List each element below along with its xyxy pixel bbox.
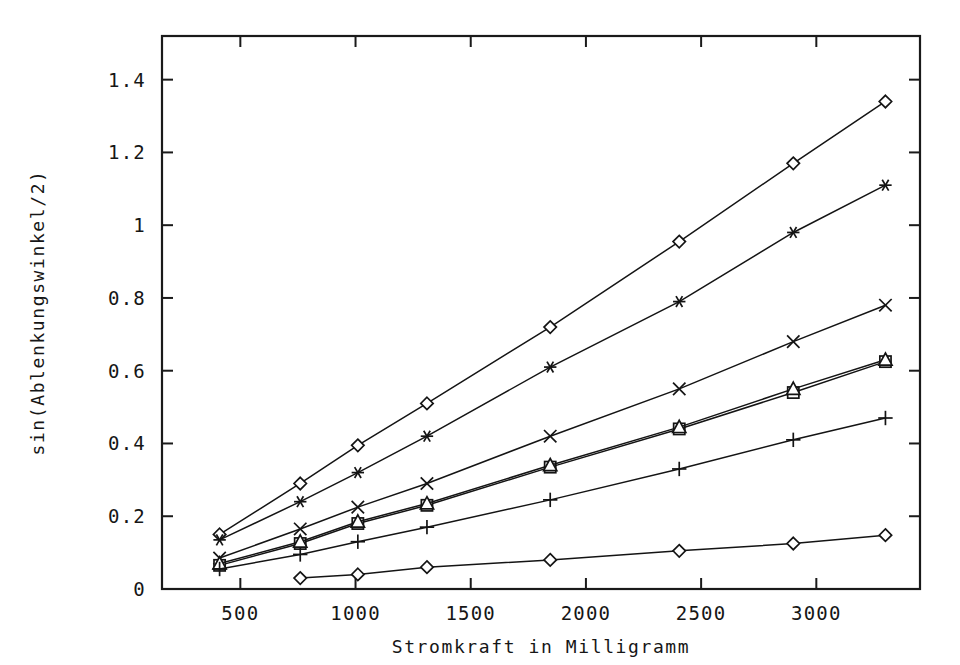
- y-tick-label: 1.4: [108, 69, 146, 91]
- data-point-cross-marker: [352, 501, 364, 513]
- series-series-2-star: [213, 180, 891, 546]
- y-axis-label: sin(Ablenkungswinkel/2): [27, 169, 48, 455]
- data-point-star-marker: [879, 180, 891, 191]
- data-point-cross-marker: [421, 477, 433, 489]
- data-point-cross-marker: [673, 383, 685, 395]
- data-point-plus-marker: [420, 520, 434, 534]
- scientific-plot: 00.20.40.60.811.21.4 5001000150020002500…: [0, 0, 960, 665]
- data-point-diamond-marker: [787, 157, 799, 169]
- x-tick-label: 500: [221, 602, 259, 624]
- x-tick-label: 2000: [561, 602, 612, 624]
- data-point-diamond-marker: [544, 554, 556, 566]
- data-point-diamond-marker: [352, 568, 364, 580]
- x-tick-label: 2500: [676, 602, 727, 624]
- x-tick-label: 1000: [330, 602, 381, 624]
- data-point-diamond-marker: [544, 321, 556, 333]
- data-point-star-marker: [673, 296, 685, 307]
- axis-tick-marks: [162, 36, 920, 589]
- data-point-diamond-marker: [421, 397, 433, 409]
- data-point-diamond-marker: [879, 95, 891, 107]
- data-point-diamond-marker: [352, 439, 364, 451]
- data-point-plus-marker: [351, 535, 365, 549]
- plot-frame: [162, 36, 920, 589]
- data-point-plus-marker: [672, 462, 686, 476]
- data-point-diamond-marker: [294, 572, 306, 584]
- y-tick-label: 0.8: [108, 287, 146, 309]
- y-tick-label: 1: [133, 214, 146, 236]
- y-tick-label: 0.4: [108, 432, 146, 454]
- x-tick-label: 1500: [445, 602, 496, 624]
- y-tick-label: 0.2: [108, 505, 146, 527]
- series-line: [220, 418, 886, 569]
- data-point-diamond-marker: [673, 545, 685, 557]
- plot-svg: 00.20.40.60.811.21.4 5001000150020002500…: [0, 0, 960, 665]
- data-point-star-marker: [294, 496, 306, 507]
- series-series-7-diamond-shallow: [294, 529, 892, 584]
- data-point-diamond-marker: [879, 529, 891, 541]
- data-point-plus-marker: [786, 433, 800, 447]
- data-point-star-marker: [787, 227, 799, 238]
- series-series-1-diamond-steep: [213, 95, 891, 540]
- data-point-star-marker: [352, 467, 364, 478]
- data-point-star-marker: [544, 362, 556, 373]
- x-axis-label: Stromkraft in Milligramm: [392, 636, 691, 657]
- data-point-plus-marker: [543, 493, 557, 507]
- data-point-cross-marker: [544, 430, 556, 442]
- x-tick-label: 3000: [791, 602, 842, 624]
- y-tick-label: 1.2: [108, 141, 146, 163]
- data-series-layer: [212, 95, 892, 584]
- data-point-diamond-marker: [421, 561, 433, 573]
- y-tick-label: 0: [133, 578, 146, 600]
- data-point-cross-marker: [879, 299, 891, 311]
- data-point-diamond-marker: [294, 477, 306, 489]
- data-point-diamond-marker: [787, 537, 799, 549]
- series-line: [220, 305, 886, 558]
- data-point-diamond-marker: [673, 235, 685, 247]
- series-series-3-cross: [213, 299, 891, 564]
- data-point-plus-marker: [878, 411, 892, 425]
- data-point-cross-marker: [787, 335, 799, 347]
- y-axis-tick-labels: 00.20.40.60.811.21.4: [108, 69, 146, 600]
- x-axis-tick-labels: 50010001500200025003000: [221, 602, 841, 624]
- data-point-star-marker: [421, 431, 433, 442]
- y-tick-label: 0.6: [108, 360, 146, 382]
